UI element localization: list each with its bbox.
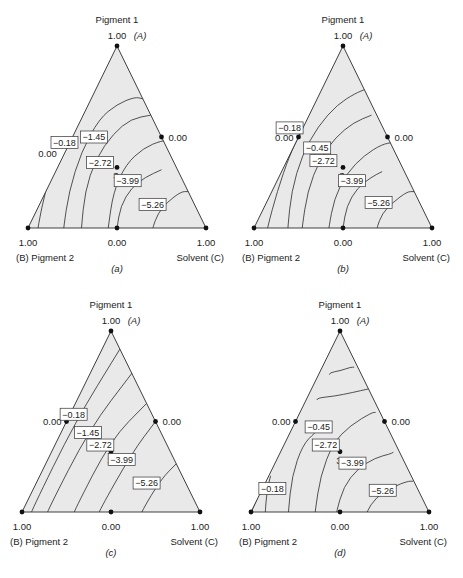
apex-name: Pigment 1 [319,299,362,310]
contour-value-label: −2.72 [312,439,339,451]
left-vertex-name: (B) Pigment 2 [10,536,68,547]
vertex-point-b [252,226,257,231]
contour-label-text: −2.72 [89,440,112,450]
left-vertex-name: (B) Pigment 2 [242,252,300,263]
contour-value-label: −5.26 [369,484,396,496]
contour-value-label: −0.45 [304,142,331,154]
contour-value-label: −0.18 [60,408,87,420]
contour-label-text: −0.18 [261,484,284,494]
contour-value-label: −2.72 [310,155,337,167]
contour-label-text: −3.99 [116,176,139,186]
right-vertex-value: 1.00 [420,521,439,532]
contour-value-label: −3.99 [114,175,141,187]
vertex-point-c [198,510,203,515]
panel-caption: (c) [105,547,116,558]
apex-symbol: (A) [134,30,147,41]
contour-value-label: −1.45 [74,426,101,438]
vertex-point-c [430,226,435,231]
apex-value: 1.00 [331,315,350,326]
left-vertex-value: 1.00 [13,521,32,532]
contour-label-text: −0.18 [62,410,85,420]
right-vertex-value: 1.00 [191,521,210,532]
apex-name: Pigment 1 [322,14,365,25]
design-point [341,165,346,170]
base-mid-label: 0.00 [331,521,350,532]
contour-label-text: −5.26 [367,198,390,208]
apex-name: Pigment 1 [96,14,139,25]
panel-caption: (a) [111,263,123,274]
contour-value-label: −0.18 [276,122,303,134]
left-vertex-name: (B) Pigment 2 [239,536,297,547]
contour-value-label: −3.99 [338,175,365,187]
contour-label-text: −2.72 [312,156,335,166]
midpoint-base [338,510,343,515]
midpoint-base [115,226,120,231]
contour-label-text: −5.26 [141,200,164,210]
left-vertex-value: 1.00 [242,521,261,532]
right-mid-label: 0.00 [169,132,188,143]
contour-value-label: −5.26 [365,197,392,209]
contour-value-label: −5.26 [133,477,160,489]
right-vertex-name: Solvent (C) [170,536,218,547]
right-mid-label: 0.00 [163,416,182,427]
midpoint-right [382,419,387,424]
contour-label-text: −1.45 [82,132,105,142]
vertex-point-a [109,329,114,334]
vertex-point-c [427,510,432,515]
right-vertex-value: 1.00 [197,237,216,248]
contour-label-text: −5.26 [371,486,394,496]
vertex-point-b [26,226,31,231]
contour-label-text: −3.99 [341,458,364,468]
right-mid-label: 0.00 [392,416,411,427]
vertex-point-b [249,510,254,515]
right-vertex-value: 1.00 [423,237,442,248]
vertex-point-b [20,510,25,515]
contour-label-text: −1.45 [76,428,99,438]
contour-label-text: −3.99 [341,176,364,186]
ternary-figure: 0.00Pigment 11.00(A)1.00(B) Pigment 20.0… [0,0,463,578]
contour-value-label: −2.72 [87,439,114,451]
ternary-panel-b: 0.000.00Pigment 11.00(A)1.00(B) Pigment … [242,14,450,274]
panel-caption: (b) [337,263,349,274]
contour-value-label: −3.99 [339,457,366,469]
vertex-point-a [341,44,346,49]
contour-value-label: −3.99 [108,454,135,466]
contour-label-text: −0.45 [306,143,329,153]
ternary-panel-d: 0.000.00Pigment 11.00(A)1.00(B) Pigment … [239,299,447,558]
vertex-point-a [115,44,120,49]
contour-label-text: −3.99 [110,455,133,465]
ternary-panel-a: 0.00Pigment 11.00(A)1.00(B) Pigment 20.0… [16,14,224,274]
apex-symbol: (A) [360,30,373,41]
contour-value-label: −0.18 [51,136,78,148]
contour-value-label: −1.45 [80,131,107,143]
apex-value: 1.00 [102,315,121,326]
midpoint-right [159,135,164,140]
apex-value: 1.00 [108,30,127,41]
midpoint-right [385,135,390,140]
panel-caption: (d) [334,547,346,558]
contour-label-text: −2.72 [89,158,112,168]
contour-value-label: −5.26 [139,198,166,210]
midpoint-base [341,226,346,231]
contour-value-label: −0.18 [259,482,286,494]
vertex-point-c [204,226,209,231]
midpoint-base [109,510,114,515]
left-vertex-name: (B) Pigment 2 [16,252,74,263]
apex-value: 1.00 [334,30,353,41]
ternary-panel-c: 0.000.00Pigment 11.00(A)1.00(B) Pigment … [10,299,218,558]
contour-label-text: −2.72 [314,440,337,450]
apex-symbol: (A) [357,315,370,326]
contour-value-label: −2.72 [87,156,114,168]
left-vertex-value: 1.00 [19,237,38,248]
right-vertex-name: Solvent (C) [176,252,224,263]
midpoint-right [153,419,158,424]
edge-value-label: 0.00 [38,148,57,159]
left-vertex-value: 1.00 [245,237,264,248]
contour-label-text: −5.26 [135,478,158,488]
midpoint-left [296,135,301,140]
contour-label-text: −0.18 [53,138,76,148]
base-mid-label: 0.00 [334,237,353,248]
base-mid-label: 0.00 [108,237,127,248]
midpoint-left [293,419,298,424]
left-mid-label: 0.00 [272,416,291,427]
